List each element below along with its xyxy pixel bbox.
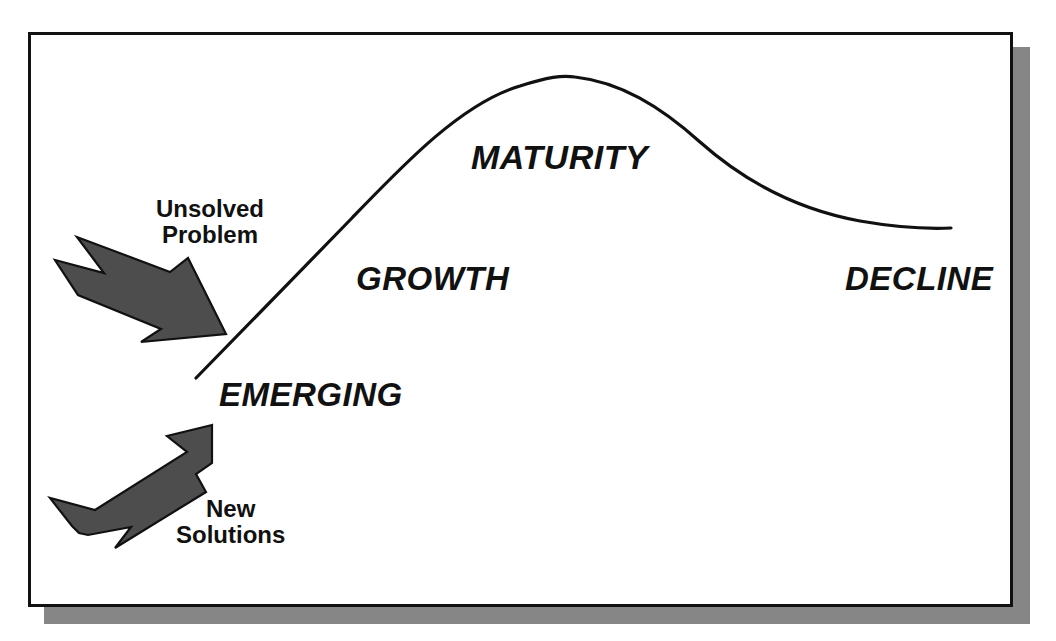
driver-label-unsolved-problem-line2: Problem — [156, 222, 264, 248]
phase-label-growth: GROWTH — [356, 262, 509, 295]
diagram-graphics — [0, 0, 1056, 641]
phase-label-maturity: MATURITY — [471, 140, 648, 174]
phase-label-emerging: EMERGING — [219, 378, 403, 411]
driver-label-new-solutions-line1: New — [176, 496, 285, 522]
phase-label-decline: DECLINE — [845, 262, 993, 295]
driver-label-unsolved-problem: Unsolved Problem — [156, 196, 264, 248]
unsolved-problem-arrow — [55, 237, 226, 342]
driver-label-new-solutions-line2: Solutions — [176, 522, 285, 548]
driver-label-unsolved-problem-line1: Unsolved — [156, 196, 264, 222]
life-cycle-curve — [196, 76, 951, 378]
driver-label-new-solutions: New Solutions — [176, 496, 285, 548]
diagram-canvas: EMERGING GROWTH MATURITY DECLINE Unsolve… — [0, 0, 1056, 641]
